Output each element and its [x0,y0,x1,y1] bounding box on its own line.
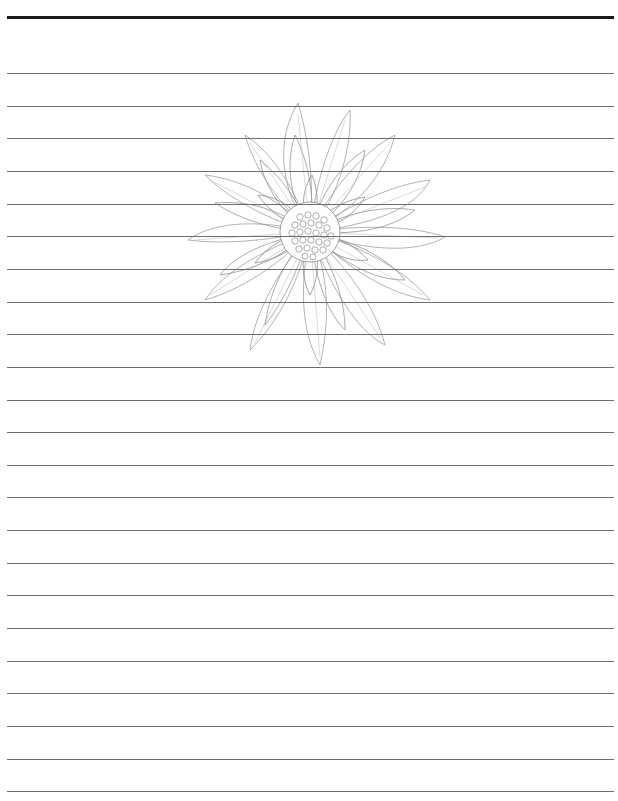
ruled-line [7,530,614,531]
ruled-line [7,432,614,433]
ruled-line [7,269,614,270]
ruled-line [7,497,614,498]
ruled-line [7,367,614,368]
ruled-line [7,563,614,564]
ruled-lines [0,0,618,801]
ruled-line [7,106,614,107]
ruled-line [7,661,614,662]
ruled-line [7,334,614,335]
ruled-line [7,73,614,74]
ruled-line [7,236,614,237]
ruled-line [7,302,614,303]
ruled-line [7,171,614,172]
top-header-rule [7,16,614,19]
ruled-line [7,628,614,629]
ruled-line [7,465,614,466]
lined-paper-page [0,0,618,801]
ruled-line [7,693,614,694]
ruled-line [7,138,614,139]
ruled-line [7,400,614,401]
ruled-line [7,595,614,596]
ruled-line [7,726,614,727]
ruled-line [7,791,614,792]
ruled-line [7,759,614,760]
ruled-line [7,204,614,205]
